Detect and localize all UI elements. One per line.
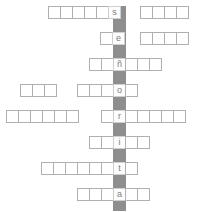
crossword-answer-row: s xyxy=(48,6,120,19)
crossword-secondary-word-row xyxy=(20,84,56,97)
crossword-cell[interactable] xyxy=(125,84,138,97)
crossword-answer-row: o xyxy=(77,84,137,97)
crossword-cell[interactable] xyxy=(173,110,186,123)
crossword-answer-row: ñ xyxy=(89,58,161,71)
crossword-answer-row: i xyxy=(89,136,149,149)
crossword-cell[interactable] xyxy=(137,188,150,201)
crossword-cell[interactable] xyxy=(44,84,57,97)
keyword-letter-cell[interactable]: s xyxy=(108,6,121,19)
keyword-letter-cell[interactable]: e xyxy=(112,32,125,45)
crossword-cell[interactable] xyxy=(149,58,162,71)
crossword-answer-row: e xyxy=(100,32,124,45)
crossword-secondary-word-row xyxy=(140,6,188,19)
crossword-secondary-word-row xyxy=(6,110,78,123)
crossword-cell[interactable] xyxy=(125,162,138,175)
crossword-cell[interactable] xyxy=(176,6,189,19)
crossword-answer-row: t xyxy=(41,162,137,175)
crossword-cell[interactable] xyxy=(66,110,79,123)
crossword-answer-row: r xyxy=(101,110,185,123)
crossword-answer-row: a xyxy=(77,188,149,201)
crossword-secondary-word-row xyxy=(140,32,188,45)
crossword-cell[interactable] xyxy=(176,32,189,45)
crossword-cell[interactable] xyxy=(137,136,150,149)
crossword-puzzle: señorita xyxy=(0,0,207,212)
